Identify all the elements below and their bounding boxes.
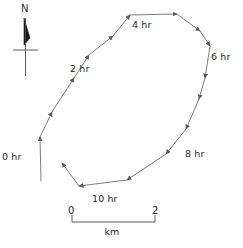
track-segment (166, 129, 186, 154)
track-segment (186, 99, 199, 129)
scale-max-label: 2 (152, 205, 158, 216)
track-segment (177, 14, 200, 31)
track-segment (79, 180, 127, 186)
track-segment (205, 46, 210, 78)
scale-unit-label: km (105, 226, 120, 237)
track-segment (40, 137, 41, 181)
north-arrow-icon (13, 18, 38, 76)
track-segment (113, 15, 130, 36)
time-label-0hr: 0 hr (2, 151, 21, 162)
track-segment (200, 31, 210, 46)
track-path (40, 14, 210, 186)
time-label-4hr: 4 hr (132, 19, 151, 30)
compass-north-label: N (21, 3, 29, 14)
scale-bar-icon (72, 215, 155, 222)
trajectory-canvas (0, 0, 243, 248)
track-segment (127, 154, 166, 180)
time-label-8hr: 8 hr (185, 148, 204, 159)
track-segment (130, 14, 177, 15)
scale-min-label: 0 (68, 205, 74, 216)
track-segment (40, 112, 52, 137)
track-segment (52, 78, 74, 112)
track-segment (89, 36, 113, 55)
track-segment (62, 163, 79, 186)
track-segment (199, 78, 205, 99)
time-label-2hr: 2 hr (70, 63, 89, 74)
time-label-6hr: 6 hr (211, 51, 230, 62)
time-label-10hr: 10 hr (92, 193, 118, 204)
trajectory-figure: N 0 hr 2 hr 4 hr 6 hr 8 hr 10 hr 0 2 km (0, 0, 243, 248)
